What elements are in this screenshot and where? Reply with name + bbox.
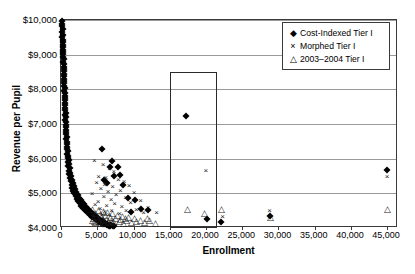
data-point (60, 56, 67, 63)
data-point (65, 157, 72, 164)
diamond-filled-icon: ◆ (287, 29, 299, 38)
data-point (59, 25, 66, 32)
data-point (77, 197, 84, 204)
data-point (63, 145, 70, 152)
data-point: × (220, 213, 225, 221)
data-point: × (96, 173, 101, 181)
data-point (59, 23, 66, 30)
data-point (73, 195, 80, 202)
data-point (78, 199, 85, 206)
cross-icon: × (287, 42, 299, 51)
data-point (64, 143, 71, 150)
y-axis-tick-labels: $4,000$5,000$6,000$7,000$8,000$9,000$10,… (0, 0, 57, 274)
data-point: × (112, 168, 117, 176)
x-axis-title: Enrollment (60, 245, 397, 256)
y-tick-label: $9,000 (28, 48, 57, 59)
data-point (120, 181, 127, 188)
data-point (66, 171, 73, 178)
y-tick-label: $10,000 (23, 14, 57, 25)
data-point: △ (97, 218, 104, 227)
data-point: △ (267, 213, 274, 222)
data-point (60, 60, 67, 67)
data-point (60, 73, 67, 80)
data-point (76, 200, 83, 207)
data-point: × (154, 209, 159, 217)
data-point (62, 104, 69, 111)
data-point (100, 176, 107, 183)
data-point (66, 165, 73, 172)
data-point (60, 68, 67, 75)
data-point (63, 128, 70, 135)
data-point (61, 92, 68, 99)
data-point (63, 141, 70, 148)
data-point (62, 116, 69, 123)
data-point: △ (122, 214, 129, 223)
data-point: × (385, 173, 390, 181)
data-point: △ (201, 209, 208, 218)
x-tick-label: 30,000 (264, 230, 292, 240)
data-point (63, 138, 70, 145)
legend-label: Morphed Tier I (300, 41, 355, 51)
data-point (61, 75, 68, 82)
gridline (61, 124, 396, 125)
data-point (60, 63, 67, 70)
data-point: × (127, 182, 132, 190)
data-point (59, 39, 66, 46)
data-point (62, 99, 69, 106)
data-point (61, 94, 68, 101)
data-point: × (107, 165, 112, 173)
x-tick-label: 35,000 (300, 230, 328, 240)
x-tick-label: 0 (57, 230, 62, 240)
data-point (69, 179, 76, 186)
gridline (61, 159, 396, 160)
data-point (111, 172, 118, 179)
data-point (64, 148, 71, 155)
data-point (384, 166, 391, 173)
data-point (70, 183, 77, 190)
data-point: × (112, 200, 117, 208)
data-point (59, 31, 66, 38)
data-point: △ (218, 205, 225, 214)
data-point: × (102, 181, 107, 189)
data-point (59, 43, 66, 50)
data-point (106, 163, 113, 170)
data-point (66, 161, 73, 168)
data-point (69, 184, 76, 191)
data-point (80, 204, 87, 211)
data-point (61, 85, 68, 92)
data-point (60, 65, 67, 72)
data-point: × (138, 197, 143, 205)
data-point (65, 163, 72, 170)
x-tick-label: 5,000 (85, 230, 108, 240)
y-tick-label: $4,000 (28, 222, 57, 233)
x-tick-label: 40,000 (336, 230, 364, 240)
scatter-chart: Revenue per Pupil $4,000$5,000$6,000$7,0… (0, 0, 415, 274)
data-point: × (104, 174, 109, 182)
data-point: △ (184, 204, 191, 213)
data-point: △ (384, 205, 391, 214)
data-point (72, 186, 79, 193)
data-point (61, 70, 68, 77)
data-point (73, 188, 80, 195)
data-point: × (123, 194, 128, 202)
legend-entry: △ 2003–2004 Tier I (287, 53, 385, 65)
data-point (61, 97, 68, 104)
data-point (62, 107, 69, 114)
x-tick-label: 15,000 (155, 230, 183, 240)
data-point (67, 178, 74, 185)
data-point (78, 202, 85, 209)
data-point (62, 126, 69, 133)
legend-label: Cost-Indexed Tier I (300, 28, 373, 38)
x-tick-label: 10,000 (119, 230, 147, 240)
data-point: × (128, 199, 133, 207)
data-point (60, 41, 67, 48)
data-point (62, 109, 69, 116)
data-point: △ (108, 218, 115, 227)
y-tick-label: $6,000 (28, 152, 57, 163)
legend-entry: × Morphed Tier I (287, 40, 385, 52)
data-point: × (122, 178, 127, 186)
data-point (60, 58, 67, 65)
data-point (64, 150, 71, 157)
data-point (61, 80, 68, 87)
y-tick-label: $5,000 (28, 187, 57, 198)
